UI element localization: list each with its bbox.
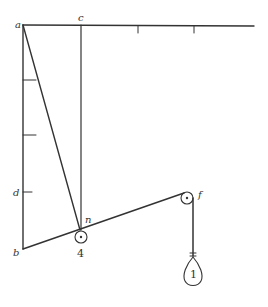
- label-c: c: [78, 12, 84, 23]
- weight-label-4: 4: [77, 247, 84, 260]
- label-a: a: [15, 19, 21, 30]
- pulley-diagram: a c d b n f 4 1: [0, 0, 268, 307]
- diagonal-string-an: [23, 25, 80, 230]
- label-d: d: [13, 187, 19, 198]
- pulley-f-center: [186, 197, 188, 199]
- string-b-to-f: [23, 193, 184, 249]
- label-b: b: [13, 247, 19, 258]
- label-n: n: [85, 214, 91, 225]
- top-beam: [23, 25, 254, 26]
- label-f: f: [197, 189, 204, 200]
- pulley-n-center: [80, 236, 82, 238]
- weight-label-1: 1: [190, 268, 197, 281]
